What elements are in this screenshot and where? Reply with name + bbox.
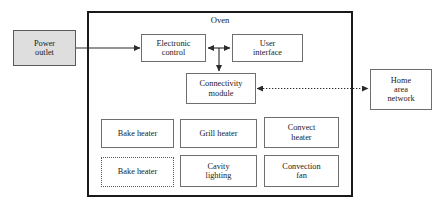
oven-label: Oven	[87, 15, 353, 25]
block-grill-heater[interactable]: Grill heater	[180, 119, 257, 148]
block-home-area-network[interactable]: Home area network	[370, 69, 432, 110]
block-cavity-lighting[interactable]: Cavity lighting	[180, 155, 257, 187]
block-convect-heater[interactable]: Convect heater	[264, 117, 339, 148]
block-bake-heater-secondary[interactable]: Bake heater	[101, 157, 174, 187]
block-power-outlet[interactable]: Power outlet	[13, 30, 76, 66]
block-convection-fan[interactable]: Convection fan	[264, 155, 339, 187]
block-user-interface[interactable]: User interface	[232, 34, 303, 62]
block-connectivity-module[interactable]: Connectivity module	[186, 73, 256, 104]
block-electronic-control[interactable]: Electronic control	[141, 34, 206, 62]
block-bake-heater-primary[interactable]: Bake heater	[101, 119, 174, 148]
diagram-canvas: Oven Power ou	[0, 0, 443, 213]
